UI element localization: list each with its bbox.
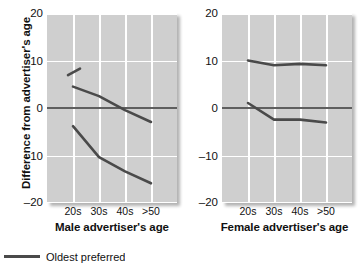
y-tick-label-20-male: 20 bbox=[3, 7, 43, 19]
y-tick-label-neg20-female: –20 bbox=[178, 196, 218, 208]
plot-area-male bbox=[47, 13, 177, 203]
series-oldest-preferred-male bbox=[73, 87, 151, 122]
y-tick-label-neg10-female: –10 bbox=[178, 150, 218, 162]
x-tick-over50-female: >50 bbox=[309, 205, 343, 217]
legend-label-oldest-preferred: Oldest preferred bbox=[46, 251, 125, 263]
x-tick-over50-male: >50 bbox=[134, 205, 168, 217]
x-axis-label-female: Female advertiser's age bbox=[207, 221, 361, 236]
series-partial-male bbox=[68, 69, 80, 76]
x-tick-labels-male: 20s 30s 40s >50 bbox=[47, 205, 177, 219]
series-youngest-preferred-male bbox=[73, 126, 151, 183]
panel-female bbox=[222, 13, 352, 203]
series-lines-male bbox=[47, 13, 177, 203]
y-tick-label-0-male: 0 bbox=[3, 102, 43, 114]
series-oldest-preferred-female bbox=[248, 61, 326, 66]
y-tick-label-neg20-male: –20 bbox=[3, 196, 43, 208]
legend-line-swatch bbox=[4, 255, 40, 258]
x-tick-labels-female: 20s 30s 40s >50 bbox=[222, 205, 352, 219]
y-tick-label-10-male: 10 bbox=[3, 55, 43, 67]
y-tick-label-10-female: 10 bbox=[178, 55, 218, 67]
legend: Oldest preferred bbox=[4, 250, 125, 263]
x-axis-label-male: Male advertiser's age bbox=[37, 221, 187, 236]
y-tick-label-neg10-male: –10 bbox=[3, 150, 43, 162]
plot-area-female bbox=[222, 13, 352, 203]
panel-male bbox=[47, 13, 177, 203]
chart-figure: Difference from advertiser's age 20 10 0… bbox=[0, 0, 361, 263]
series-lines-female bbox=[222, 13, 352, 203]
y-tick-label-0-female: 0 bbox=[178, 102, 218, 114]
series-youngest-preferred-female bbox=[248, 103, 326, 123]
y-tick-label-20-female: 20 bbox=[178, 7, 218, 19]
